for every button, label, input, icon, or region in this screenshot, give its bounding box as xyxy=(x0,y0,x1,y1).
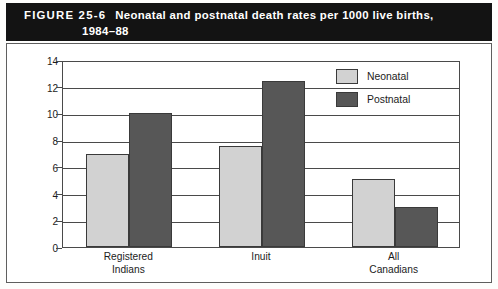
legend-swatch-postnatal xyxy=(336,92,358,107)
y-tick-label-4: 4 xyxy=(16,189,58,200)
bar-postnatal-0 xyxy=(129,113,172,247)
y-tick-mark-14 xyxy=(56,61,62,62)
y-tick-mark-8 xyxy=(56,141,62,142)
y-tick-label-8: 8 xyxy=(16,136,58,147)
bar-postnatal-1 xyxy=(262,81,305,247)
legend-label-postnatal: Postnatal xyxy=(367,94,410,105)
y-tick-mark-2 xyxy=(56,221,62,222)
y-tick-label-12: 12 xyxy=(16,82,58,93)
figure-title-line-2: 1984–88 xyxy=(6,23,492,39)
category-label-2: All Canadians xyxy=(327,251,460,276)
legend-item-neonatal: Neonatal xyxy=(336,69,446,84)
y-tick-label-2: 2 xyxy=(16,216,58,227)
figure-number-label: FIGURE 25-6 xyxy=(24,9,106,21)
legend-swatch-neonatal xyxy=(336,69,358,84)
legend-label-neonatal: Neonatal xyxy=(367,71,409,82)
y-tick-label-0: 0 xyxy=(16,243,58,254)
figure-title-text-1: Neonatal and postnatal death rates per 1… xyxy=(115,9,433,21)
figure-title-line-1: FIGURE 25-6Neonatal and postnatal death … xyxy=(6,7,492,23)
figure-title-banner: FIGURE 25-6Neonatal and postnatal death … xyxy=(6,3,492,41)
legend-item-postnatal: Postnatal xyxy=(336,92,446,107)
y-tick-label-6: 6 xyxy=(16,162,58,173)
y-tick-mark-0 xyxy=(56,248,62,249)
category-label-0: Registered Indians xyxy=(62,251,195,276)
y-tick-mark-6 xyxy=(56,167,62,168)
y-tick-label-10: 10 xyxy=(16,109,58,120)
figure-container: FIGURE 25-6Neonatal and postnatal death … xyxy=(0,0,498,289)
y-tick-label-14: 14 xyxy=(16,56,58,67)
y-tick-mark-4 xyxy=(56,194,62,195)
bar-neonatal-0 xyxy=(86,154,129,248)
bar-neonatal-1 xyxy=(219,146,262,248)
category-label-1: Inuit xyxy=(195,251,328,264)
bar-postnatal-2 xyxy=(395,207,438,247)
bar-neonatal-2 xyxy=(352,179,395,247)
y-axis: 02468101214 xyxy=(14,61,58,248)
y-tick-mark-10 xyxy=(56,114,62,115)
y-tick-mark-12 xyxy=(56,87,62,88)
chart-legend: Neonatal Postnatal xyxy=(336,69,446,115)
gridline-10 xyxy=(63,115,459,116)
gridline-8 xyxy=(63,142,459,143)
